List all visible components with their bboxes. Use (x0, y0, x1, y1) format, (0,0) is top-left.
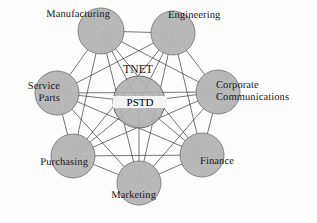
node-label-line: Service (2, 81, 60, 93)
node-label-service-parts: ServiceParts (2, 81, 60, 105)
node-purchasing[interactable] (51, 134, 95, 178)
node-label-line: Parts (2, 93, 60, 105)
network-diagram: ManufacturingEngineeringCorporateCommuni… (0, 0, 317, 223)
node-label-line: Engineering (168, 10, 254, 22)
node-label-engineering: Engineering (168, 10, 254, 22)
node-label-line: Corporate (216, 80, 317, 92)
network-graph-canvas (0, 0, 317, 223)
hub-node-label: PSTD (113, 96, 167, 108)
node-label-corporate-communications: CorporateCommunications (216, 80, 317, 104)
node-label-line: Purchasing (10, 157, 88, 169)
node-label-finance: Finance (200, 156, 270, 168)
node-label-line: Manufacturing (18, 9, 110, 21)
node-label-purchasing: Purchasing (10, 157, 88, 169)
node-label-manufacturing: Manufacturing (18, 9, 110, 21)
network-title-label: TNET (108, 63, 168, 75)
node-label-line: Finance (200, 156, 270, 168)
node-label-line: Marketing (84, 190, 156, 202)
node-label-marketing: Marketing (84, 190, 156, 202)
node-label-line: Communications (216, 92, 317, 104)
node-finance[interactable] (180, 133, 224, 177)
